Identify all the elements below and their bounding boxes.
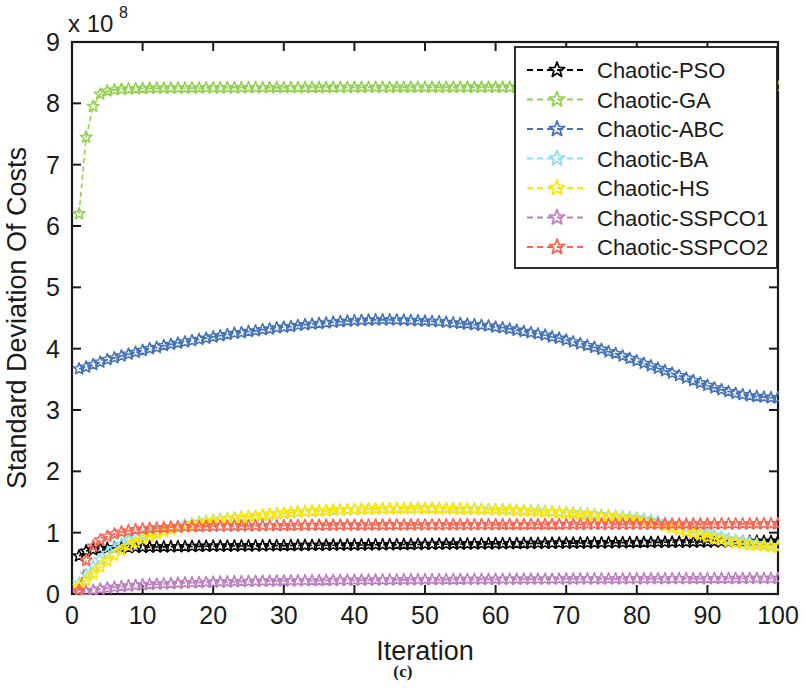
y-tick-label: 3 — [46, 396, 60, 424]
y-tick-label: 6 — [46, 212, 60, 240]
x-tick-label: 70 — [552, 601, 580, 629]
y-tick-label: 2 — [46, 457, 60, 485]
multiplier-base: x 10 — [68, 10, 113, 37]
x-tick-label: 50 — [411, 601, 439, 629]
x-tick-label: 30 — [270, 601, 298, 629]
y-tick-label: 7 — [46, 151, 60, 179]
legend-label: Chaotic-ABC — [597, 117, 724, 142]
x-tick-label: 90 — [693, 601, 721, 629]
legend: Chaotic-PSOChaotic-GAChaotic-ABCChaotic-… — [515, 47, 777, 268]
x-tick-label: 10 — [129, 601, 157, 629]
y-tick-label: 0 — [46, 580, 60, 608]
x-tick-label: 20 — [199, 601, 227, 629]
legend-label: Chaotic-PSO — [597, 58, 725, 83]
y-tick-label: 4 — [46, 335, 60, 363]
x-tick-label: 80 — [623, 601, 651, 629]
x-tick-label: 40 — [340, 601, 368, 629]
multiplier-exponent: 8 — [119, 4, 128, 21]
legend-label: Chaotic-GA — [597, 88, 711, 113]
figure-caption: (c) — [0, 662, 806, 682]
legend-label: Chaotic-BA — [597, 147, 709, 172]
figure-container: 01020304050607080901000123456789x 108Ite… — [0, 0, 806, 695]
x-tick-label: 60 — [482, 601, 510, 629]
y-axis-multiplier: x 108 — [68, 4, 128, 37]
legend-label: Chaotic-HS — [597, 176, 709, 201]
y-tick-label: 8 — [46, 89, 60, 117]
y-tick-label: 9 — [46, 28, 60, 56]
x-tick-label: 100 — [757, 601, 799, 629]
y-axis-label: Standard Deviation Of Costs — [2, 147, 32, 489]
legend-label: Chaotic-SSPCO2 — [597, 235, 768, 260]
chart-canvas: 01020304050607080901000123456789x 108Ite… — [0, 0, 806, 695]
x-tick-label: 0 — [65, 601, 79, 629]
y-tick-label: 5 — [46, 273, 60, 301]
y-tick-label: 1 — [46, 519, 60, 547]
legend-label: Chaotic-SSPCO1 — [597, 206, 768, 231]
